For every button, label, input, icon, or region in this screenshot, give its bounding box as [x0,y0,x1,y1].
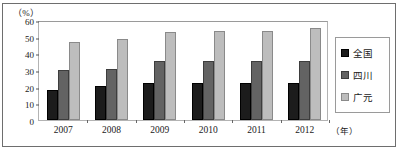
bar-group [87,22,135,120]
legend-swatch-icon [341,93,349,101]
bar-广元-2007 [69,42,80,120]
plot-area: 0102030405060200720082009201020112012 [38,21,328,121]
bar-四川-2007 [58,70,69,120]
bar-广元-2011 [262,31,273,120]
x-axis-tick-label: 2008 [102,125,121,135]
bar-group [184,22,232,120]
legend-label: 全国 [353,46,373,60]
bar-group [281,22,329,120]
legend-label: 广元 [353,90,373,104]
bar-group [232,22,280,120]
x-axis-tick-mark [232,120,233,123]
x-axis-tick-mark [184,120,185,123]
x-axis-tick-label: 2011 [247,125,266,135]
bar-广元-2010 [214,31,225,120]
x-axis-unit-label: （年） [331,124,358,136]
bar-全国-2008 [95,86,106,120]
legend-item-广元: 广元 [341,90,389,104]
bar-广元-2009 [165,32,176,120]
bar-全国-2011 [240,83,251,120]
bar-四川-2009 [154,61,165,120]
bar-广元-2012 [310,28,321,120]
x-axis-tick-mark [329,120,330,123]
x-axis-tick-mark [136,120,137,123]
bar-四川-2008 [106,69,117,120]
x-axis-tick-label: 2010 [199,125,218,135]
x-axis-tick-label: 2009 [150,125,169,135]
legend-label: 四川 [353,68,373,82]
legend-swatch-icon [341,49,349,57]
x-axis-tick-mark [281,120,282,123]
bar-广元-2008 [117,39,128,120]
y-axis-tick-label: 0 [30,117,40,127]
bar-全国-2009 [143,83,154,120]
chart-legend: 全国四川广元 [335,37,390,113]
bar-全国-2010 [192,83,203,120]
legend-item-四川: 四川 [341,68,389,82]
bar-四川-2012 [299,61,310,120]
bar-group [136,22,184,120]
legend-swatch-icon [341,71,349,79]
x-axis-tick-label: 2012 [295,125,314,135]
bar-全国-2007 [47,90,58,120]
bar-全国-2012 [288,83,299,121]
bar-四川-2010 [203,61,214,120]
legend-item-全国: 全国 [341,46,389,60]
x-axis-tick-label: 2007 [54,125,73,135]
bar-四川-2011 [251,61,262,120]
bar-group [39,22,87,120]
x-axis-tick-mark [87,120,88,123]
chart-figure: （%） 010203040506020072008200920102011201… [0,0,400,151]
